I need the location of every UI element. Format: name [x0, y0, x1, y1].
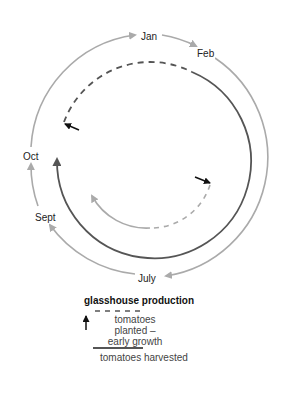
outer-month-cycle	[31, 35, 268, 276]
inner-cycle-arc	[92, 196, 150, 228]
month-label-jan: Jan	[140, 31, 158, 42]
legend-planted-line1: tomatoes planted –	[100, 314, 170, 336]
planted-dashed-arc	[64, 62, 192, 122]
month-label-july: July	[137, 273, 157, 284]
harvested-arc	[57, 72, 251, 258]
legend-title: glasshouse production	[84, 295, 194, 306]
planting-pointer-arrow-left	[65, 124, 79, 130]
legend-planted-label: tomatoes planted – early growth	[100, 314, 170, 347]
legend-harvested-label: tomatoes harvested	[100, 352, 188, 363]
month-label-feb: Feb	[196, 48, 215, 59]
planting-pointer-arrow-right	[195, 177, 210, 183]
inner-planted-dashed-arc	[150, 185, 210, 228]
legend-planted-line2: early growth	[100, 336, 170, 347]
month-label-oct: Oct	[22, 151, 40, 162]
month-label-sept: Sept	[34, 212, 57, 223]
